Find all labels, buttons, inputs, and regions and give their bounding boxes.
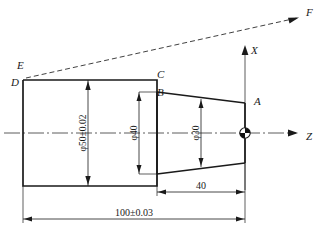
z-axis-arrowhead-icon (288, 130, 298, 137)
dim50-arrow-bottom-icon (85, 176, 90, 185)
point-label-B: B (157, 86, 164, 98)
dim-len100-arrow-left-icon (24, 216, 32, 221)
toolpath-arrowhead-icon (288, 18, 299, 24)
x-axis-arrowhead-icon (242, 45, 249, 55)
dim40-arrow-top-icon (137, 93, 142, 101)
part-drawing-svg: φ50±0.02 φ40 φ30 40 (0, 0, 318, 236)
dimension-length-100: 100±0.03 (23, 186, 245, 223)
dim-len100-text: 100±0.03 (115, 207, 153, 218)
dim-len40-arrow-right-icon (236, 189, 244, 194)
dim30-arrow-bottom-icon (199, 158, 204, 166)
dim40-text: φ40 (129, 125, 139, 140)
axis-label-z: Z (306, 130, 313, 142)
point-label-C: C (157, 68, 165, 80)
point-label-F: F (305, 6, 313, 18)
dim30-arrow-top-icon (199, 100, 204, 108)
point-label-D: D (10, 76, 19, 88)
dim-len40-arrow-left-icon (158, 189, 166, 194)
point-label-E: E (16, 59, 24, 71)
origin-quadrant-lower-left (240, 133, 245, 138)
center-line-horizontal (4, 130, 298, 137)
point-label-A: A (253, 95, 261, 107)
dim30-text: φ30 (191, 125, 201, 140)
origin-quadrant-upper-right (245, 128, 250, 133)
axis-label-x: X (250, 44, 259, 56)
dim50-text: φ50±0.02 (78, 114, 88, 151)
dim50-arrow-top-icon (85, 81, 90, 90)
dim40-arrow-bottom-icon (137, 165, 142, 173)
dim-len100-arrow-right-icon (236, 216, 244, 221)
engineering-drawing-canvas: φ50±0.02 φ40 φ30 40 (0, 0, 318, 236)
workpiece-origin-marker (240, 128, 250, 138)
dim-len40-text: 40 (196, 180, 206, 191)
